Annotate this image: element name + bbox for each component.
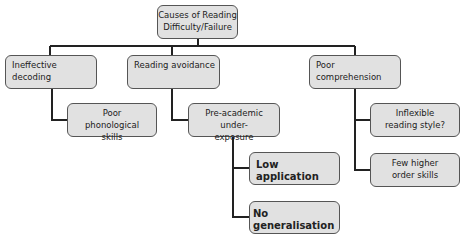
node-inflexible-reading-style: Inflexible reading style? [370,103,460,137]
node-label: Ineffective decoding [12,60,57,82]
node-label: Poor phonological skills [85,108,139,142]
node-low-application: Low application [249,152,340,185]
root-node: Causes of Reading Difficulty/Failure [157,5,238,39]
node-ineffective-decoding: Ineffective decoding [5,55,97,89]
node-no-generalisation: No generalisation [249,201,340,234]
node-label: No generalisation [253,208,334,231]
node-label: Inflexible reading style? [385,108,445,130]
node-poor-comprehension: Poor comprehension [309,55,401,89]
node-pre-academic-under-exposure: Pre-academic under-exposure [188,103,280,137]
node-few-higher-order-skills: Few higher order skills [370,153,460,187]
node-label: Poor comprehension [316,60,381,82]
node-reading-avoidance: Reading avoidance [127,55,220,89]
node-poor-phonological-skills: Poor phonological skills [67,103,157,137]
node-label: Few higher order skills [392,158,439,180]
root-label: Causes of Reading Difficulty/Failure [158,10,237,32]
node-label: Pre-academic under-exposure [205,108,263,142]
node-label: Low application [256,159,319,182]
node-label: Reading avoidance [134,60,215,70]
